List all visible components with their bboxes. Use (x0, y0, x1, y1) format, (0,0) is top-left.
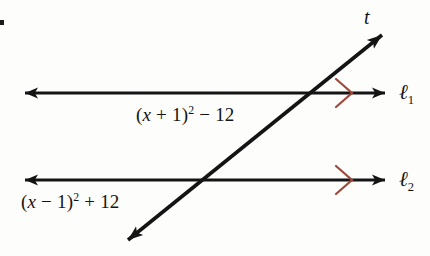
line-label-l2: ℓ2 (399, 167, 414, 192)
line-label-l2-symbol: ℓ (399, 167, 408, 191)
expr-lower-middle: − 1) (36, 191, 73, 212)
line-label-transversal: t (364, 6, 370, 29)
geometry-diagram (0, 0, 430, 256)
angle-expression-upper: (x + 1)2 − 12 (136, 104, 235, 126)
figure-canvas: (x + 1)2 − 12 (x − 1)2 + 12 ℓ1 ℓ2 t (0, 0, 430, 256)
angle-expression-lower: (x − 1)2 + 12 (21, 191, 120, 213)
line-transversal (128, 35, 382, 240)
expr-upper-suffix: − 12 (194, 104, 234, 125)
expr-lower-suffix: + 12 (79, 191, 119, 212)
expr-upper-variable: x (143, 104, 152, 125)
line-label-l1-symbol: ℓ (399, 80, 408, 104)
line-label-l2-subscript: 2 (408, 180, 414, 194)
transversal-group (128, 35, 382, 240)
expr-upper-middle: + 1) (151, 104, 188, 125)
line-label-l1: ℓ1 (399, 80, 414, 105)
expr-lower-variable: x (28, 191, 37, 212)
line-label-l1-subscript: 1 (408, 93, 414, 107)
